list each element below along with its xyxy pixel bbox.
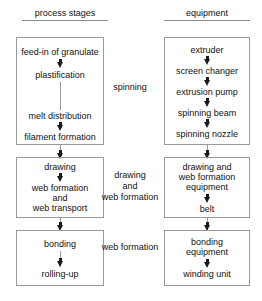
node-bonding-equipment-line2: equipment	[164, 247, 250, 258]
node-screen-changer: screen changer	[164, 66, 250, 77]
node-rolling-up: rolling-up	[16, 269, 104, 280]
arrow-down-icon	[204, 77, 211, 86]
middle-label-web-formation: web formation	[100, 192, 160, 203]
node-spinning-beam: spinning beam	[164, 108, 250, 119]
connector-line	[60, 82, 61, 110]
node-drawing: drawing	[16, 162, 104, 173]
node-bonding: bonding	[16, 239, 104, 250]
middle-label-spinning: spinning	[100, 82, 160, 93]
arrow-down-icon	[204, 98, 211, 107]
arrow-down-icon	[204, 259, 211, 268]
middle-label-drawing: drawing	[100, 170, 160, 181]
node-web-transport: web transport	[16, 203, 104, 214]
middle-label-and: and	[100, 181, 160, 192]
node-melt-distribution: melt distribution	[16, 111, 104, 122]
node-bonding-equipment-line1: bonding	[164, 237, 250, 248]
column-header-equipment: equipment	[164, 8, 250, 21]
node-extruder: extruder	[164, 45, 250, 56]
node-web-formation: web formation	[16, 183, 104, 194]
node-extrusion-pump: extrusion pump	[164, 87, 250, 98]
node-drawing-and: drawing and	[164, 162, 250, 173]
arrow-down-icon	[57, 173, 64, 182]
arrow-down-icon	[57, 59, 64, 68]
node-and: and	[16, 193, 104, 204]
node-spinning-nozzle: spinning nozzle	[164, 129, 250, 140]
arrow-down-icon	[57, 122, 64, 131]
arrow-down-icon	[204, 56, 211, 65]
arrow-down-icon	[204, 194, 211, 203]
node-equipment: equipment	[164, 182, 250, 193]
process-flow-diagram: process stages equipment feed-in of gran…	[0, 0, 262, 301]
node-winding-unit: winding unit	[164, 269, 250, 280]
node-plastification: plastification	[16, 70, 104, 81]
arrow-down-icon	[57, 258, 64, 267]
node-filament-formation: filament formation	[16, 132, 104, 143]
column-header-process-stages: process stages	[22, 8, 108, 21]
node-belt: belt	[164, 204, 250, 215]
arrow-down-icon	[204, 119, 211, 128]
node-feed-in-of-granulate: feed-in of granulate	[16, 47, 104, 58]
middle-label-bonding-web-formation: web formation	[100, 242, 160, 253]
node-web-formation-equipment-line2: web formation	[164, 172, 250, 183]
